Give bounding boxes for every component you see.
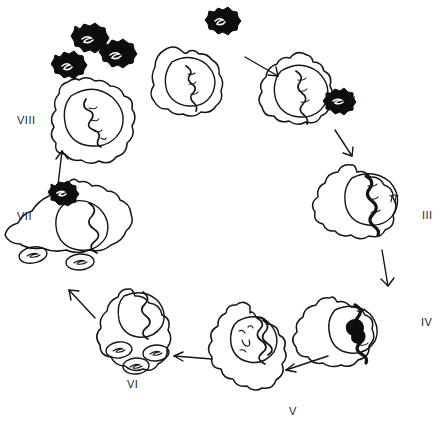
arrow-II-to-III (335, 130, 353, 156)
released-virus-particle-VIII-3 (99, 39, 137, 68)
assembled-vesicle-VI-2 (142, 344, 169, 362)
nucleus-VII (56, 201, 108, 251)
stage-label-VI: VI (127, 378, 138, 390)
stage-IV-group (293, 297, 377, 367)
arrow-IV-to-V (286, 356, 328, 372)
stage-II-group (259, 53, 356, 125)
stage-V-group (209, 302, 287, 390)
nascent-strands-V (239, 326, 253, 352)
stage-label-I: I (233, 10, 237, 22)
stage-VII-group (5, 179, 132, 271)
arrow-VI-to-VII (69, 290, 95, 318)
nucleus-VIII (64, 89, 123, 146)
stage-label-VIII: VIII (17, 114, 36, 126)
stage-label-III: III (422, 209, 433, 221)
released-virus-particle-VIII-2 (51, 51, 87, 79)
nucleus-VI (118, 293, 164, 337)
dna-strand-VIII (84, 99, 101, 147)
budding-virus-particle-VII (48, 181, 79, 206)
diagram-artwork (0, 0, 448, 437)
stage-VIII-group (51, 23, 137, 163)
nucleus-V (231, 317, 277, 363)
stage-label-IV: IV (421, 316, 432, 328)
host-cell-II (259, 53, 332, 125)
stage-I-group (151, 7, 241, 116)
host-cell-III (313, 165, 396, 239)
viral-dna-VII (89, 203, 99, 253)
stage-label-II: II (349, 94, 356, 106)
arrow-III-to-IV (381, 250, 394, 286)
assembled-vesicle-VI-3 (122, 357, 149, 375)
assembled-vesicle-VII-2 (65, 253, 94, 271)
stage-label-VII: VII (17, 210, 32, 222)
diagram-canvas: I II III IV V VI VII VIII (0, 0, 448, 437)
stage-III-group (313, 165, 398, 239)
stage-label-V: V (289, 405, 297, 417)
assembled-vesicle-VI-1 (105, 340, 133, 359)
stage-VI-group (97, 289, 171, 375)
arrow-V-to-VI (174, 352, 212, 361)
